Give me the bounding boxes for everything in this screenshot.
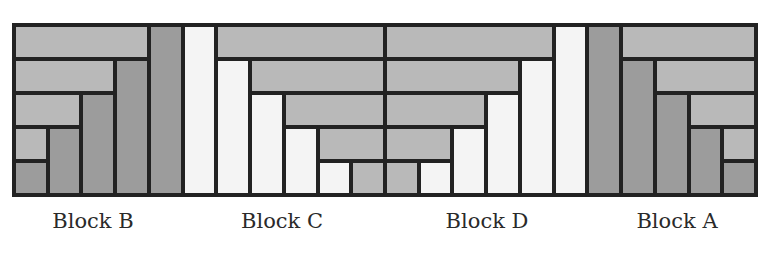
quilt-piece-block-c bbox=[353, 163, 383, 193]
quilt-piece-block-b bbox=[16, 27, 147, 57]
quilt-piece-block-d bbox=[387, 129, 450, 159]
quilt-piece-block-d bbox=[387, 95, 484, 125]
quilt-piece-block-a bbox=[589, 27, 619, 193]
block-label-d: Block D bbox=[446, 209, 529, 233]
quilt-piece-block-b bbox=[83, 95, 113, 193]
quilt-piece-block-d bbox=[522, 61, 552, 193]
quilt-piece-block-a bbox=[691, 95, 754, 125]
quilt-piece-block-b bbox=[16, 61, 113, 91]
quilt-piece-block-c bbox=[252, 95, 282, 193]
quilt-piece-block-a bbox=[724, 129, 754, 159]
block-label-a: Block A bbox=[636, 209, 717, 233]
quilt-piece-block-c bbox=[320, 129, 383, 159]
quilt-piece-block-d bbox=[387, 61, 518, 91]
quilt-piece-block-d bbox=[421, 163, 451, 193]
quilt-piece-block-b bbox=[16, 163, 46, 193]
quilt-piece-block-b bbox=[16, 129, 46, 159]
quilt-piece-block-a bbox=[623, 27, 754, 57]
quilt-piece-block-b bbox=[151, 27, 181, 193]
block-label-b: Block B bbox=[52, 209, 133, 233]
quilt-piece-block-d bbox=[556, 27, 586, 193]
quilt-piece-block-c bbox=[252, 61, 383, 91]
quilt-piece-block-a bbox=[657, 61, 754, 91]
quilt-piece-block-c bbox=[320, 163, 350, 193]
quilt-piece-block-d bbox=[387, 163, 417, 193]
quilt-piece-block-c bbox=[286, 129, 316, 193]
quilt-piece-block-c bbox=[218, 27, 383, 57]
quilt-piece-block-a bbox=[724, 163, 754, 193]
quilt-piece-block-d bbox=[488, 95, 518, 193]
quilt-piece-block-c bbox=[286, 95, 383, 125]
quilt-piece-block-a bbox=[623, 61, 653, 193]
quilt-piece-block-c bbox=[218, 61, 248, 193]
quilt-piece-block-a bbox=[691, 129, 721, 193]
quilt-diagram bbox=[12, 23, 758, 197]
quilt-piece-block-a bbox=[657, 95, 687, 193]
quilt-piece-block-d bbox=[454, 129, 484, 193]
quilt-piece-block-d bbox=[387, 27, 552, 57]
block-label-c: Block C bbox=[241, 209, 323, 233]
quilt-piece-block-b bbox=[16, 95, 79, 125]
quilt-piece-block-b bbox=[50, 129, 80, 193]
quilt-piece-block-b bbox=[117, 61, 147, 193]
quilt-piece-block-c bbox=[185, 27, 215, 193]
